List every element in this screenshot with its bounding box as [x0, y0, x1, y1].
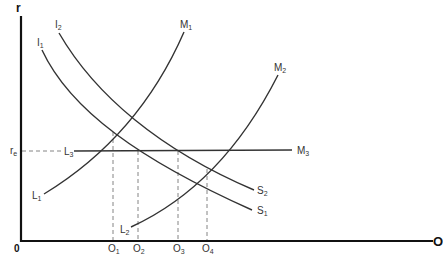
diagram-canvas: r O 0 re I1 I2 M1 M2 M3 L1 L2 L3 S1 S2 O… — [0, 0, 443, 257]
y-axis-label: r — [16, 1, 21, 15]
re-label: re — [10, 145, 17, 157]
curve-l1-m1 — [44, 32, 184, 194]
axes — [21, 16, 433, 242]
tick-o2: O2 — [133, 243, 145, 255]
label-l2: L2 — [120, 224, 130, 236]
label-m1: M1 — [180, 19, 192, 31]
label-l1: L1 — [32, 190, 42, 202]
label-l3: L3 — [64, 146, 74, 158]
curve-l3-m3 — [74, 150, 292, 151]
tick-o3: O3 — [173, 243, 185, 255]
label-i2: I2 — [55, 19, 62, 31]
tick-o4: O4 — [202, 243, 214, 255]
guide-lines — [22, 132, 207, 240]
label-i1: I1 — [37, 37, 44, 49]
label-m2: M2 — [274, 62, 286, 74]
x-axis-label: O — [433, 234, 443, 249]
origin-label: 0 — [14, 243, 20, 254]
label-s2: S2 — [257, 185, 268, 197]
tick-o1: O1 — [108, 243, 120, 255]
label-m3: M3 — [297, 145, 309, 157]
label-s1: S1 — [257, 205, 268, 217]
economics-diagram: r O 0 re I1 I2 M1 M2 M3 L1 L2 L3 S1 S2 O… — [0, 0, 443, 257]
